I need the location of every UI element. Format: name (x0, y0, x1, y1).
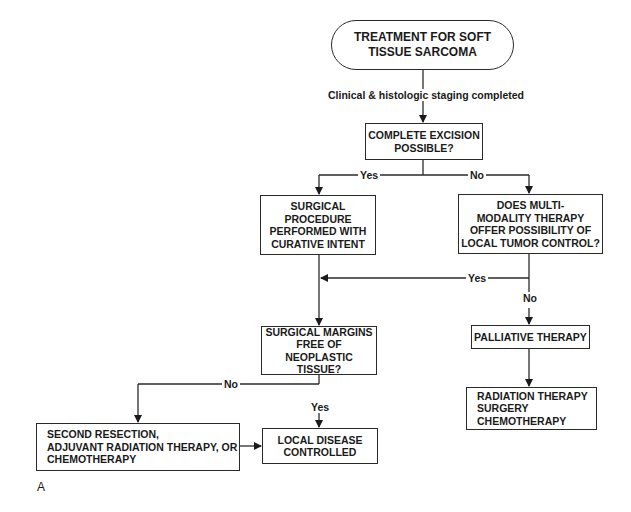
second-resection-node: SECOND RESECTION, ADJUVANT RADIATION THE… (36, 423, 240, 471)
margins-decision-node: SURGICAL MARGINS FREE OF NEOPLASTIC TISS… (261, 326, 377, 375)
resection-line-2: ADJUVANT RADIATION THERAPY, OR (47, 441, 237, 454)
margins-yes-label: Yes (309, 401, 331, 413)
resection-line-1: SECOND RESECTION, (47, 428, 159, 441)
margins-line-1: SURGICAL MARGINS (265, 326, 372, 339)
excision-line-2: POSSIBLE? (394, 142, 454, 155)
multi-yes-label: Yes (466, 272, 488, 284)
figure-label: A (37, 480, 45, 494)
surgical-line-1: SURGICAL (291, 200, 346, 213)
excision-line-1: COMPLETE EXCISION (368, 129, 479, 142)
multi-no-label: No (521, 292, 539, 304)
controlled-line-1: LOCAL DISEASE (278, 434, 363, 447)
surgical-line-3: PERFORMED WITH (270, 225, 367, 238)
options-line-1: RADIATION THERAPY (477, 390, 588, 403)
multi-line-3: OFFER POSSIBILITY OF (470, 224, 591, 237)
excision-no-label: No (468, 169, 486, 181)
staging-label: Clinical & histologic staging completed (326, 89, 526, 101)
start-line-2: TISSUE SARCOMA (368, 45, 477, 60)
palliative-line-1: PALLIATIVE THERAPY (474, 331, 587, 344)
margins-no-label: No (222, 378, 240, 390)
controlled-line-2: CONTROLLED (284, 446, 357, 459)
disease-controlled-node: LOCAL DISEASE CONTROLLED (262, 428, 378, 464)
start-node: TREATMENT FOR SOFT TISSUE SARCOMA (331, 20, 514, 70)
excision-yes-label: Yes (358, 169, 380, 181)
palliative-options-node: RADIATION THERAPY SURGERY CHEMOTHERAPY (466, 387, 597, 430)
multi-line-4: LOCAL TUMOR CONTROL? (461, 237, 600, 250)
multi-line-2: MODALITY THERAPY (477, 212, 585, 225)
surgical-line-2: PROCEDURE (284, 213, 351, 226)
options-line-3: CHEMOTHERAPY (477, 415, 566, 428)
start-line-1: TREATMENT FOR SOFT (354, 30, 491, 45)
resection-line-3: CHEMOTHERAPY (47, 453, 136, 466)
surgical-line-4: CURATIVE INTENT (271, 238, 365, 251)
multi-line-1: DOES MULTI- (497, 199, 564, 212)
excision-decision-node: COMPLETE EXCISION POSSIBLE? (365, 123, 483, 160)
margins-line-2: FREE OF (296, 338, 342, 351)
palliative-therapy-node: PALLIATIVE THERAPY (471, 325, 590, 349)
multimodality-decision-node: DOES MULTI- MODALITY THERAPY OFFER POSSI… (458, 194, 603, 254)
margins-line-3: NEOPLASTIC TISSUE? (262, 351, 376, 376)
options-line-2: SURGERY (477, 402, 529, 415)
surgical-procedure-node: SURGICAL PROCEDURE PERFORMED WITH CURATI… (260, 195, 376, 255)
